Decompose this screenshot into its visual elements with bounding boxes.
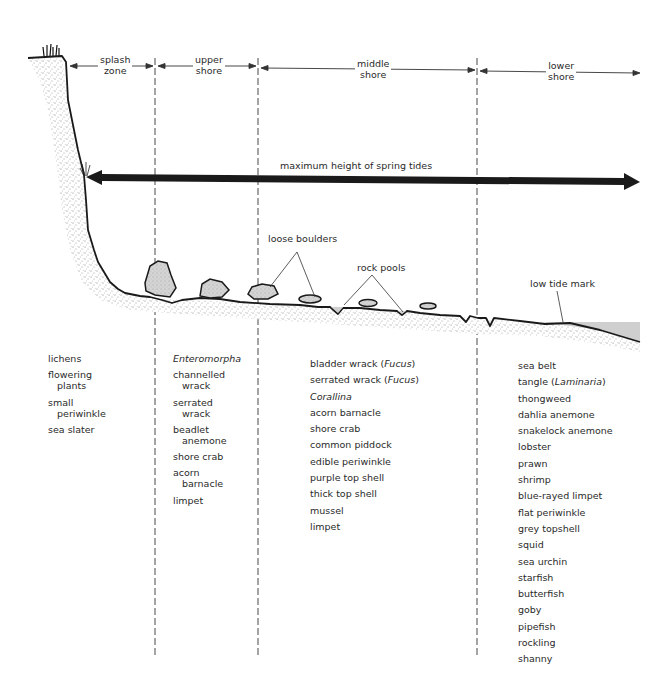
text-label: lobster [518,441,551,452]
text-label: shrimp [518,474,551,485]
species-item: tangle (Laminaria) [518,376,613,387]
species-item: snakelock anemone [518,425,613,436]
text-label: squid [518,539,544,550]
low-tide-mark-label: low tide mark [530,278,595,289]
text-label: lichens [48,353,81,364]
species-item: starfish [518,572,613,583]
text-label: acorn barnacle [310,407,381,418]
text-label: zone [100,65,130,76]
species-item: dahlia anemone [518,409,613,420]
text-label: rockling [518,637,556,648]
species-item: lichens [48,353,106,364]
text-label: anemone [173,435,241,446]
text-label: tangle ( [518,376,555,387]
text-label: butterfish [518,588,564,599]
text-label: upper [195,54,223,65]
species-item: lobster [518,441,613,452]
species-item: shrimp [518,474,613,485]
text-label: shore crab [173,451,223,462]
species-item: purple top shell [310,472,419,483]
text-label: serrated [173,397,213,408]
species-item: edible periwinkle [310,456,419,467]
species-item: common piddock [310,439,419,450]
species-item: squid [518,539,613,550]
species-item: blue-rayed limpet [518,490,613,501]
text-label: acorn [173,467,200,478]
species-list-splash-zone: lichens floweringplants smallperiwinkle … [48,353,106,440]
text-label: serrated wrack ( [310,374,388,385]
species-item: Enteromorpha [173,353,241,364]
text-label: ) [415,374,419,385]
text-label: limpet [173,495,203,506]
text-label: small [48,397,73,408]
species-item: flat periwinkle [518,507,613,518]
boulder [420,303,436,309]
text-label: lower [548,60,574,71]
species-item: beadletanemone [173,424,241,446]
species-item: butterfish [518,588,613,599]
text-label: plants [48,380,106,391]
species-item: acornbarnacle [173,467,241,489]
species-item: shore crab [310,423,419,434]
zone-label-splash: splash zone [98,54,132,76]
text-label: periwinkle [48,408,106,419]
text-label: ) [602,376,606,387]
text-label: grey topshell [518,523,580,534]
text-label: flat periwinkle [518,507,585,518]
species-item: sea slater [48,424,106,435]
species-item: channelledwrack [173,369,241,391]
species-item: limpet [310,521,419,532]
species-item: Corallina [310,391,419,402]
text-label: starfish [518,572,553,583]
boulder [248,284,278,299]
species-item: smallperiwinkle [48,397,106,419]
species-item: sea belt [518,360,613,371]
species-item: floweringplants [48,369,106,391]
text-label: limpet [310,521,340,532]
text-label: goby [518,604,542,615]
text-label: shore [548,71,574,82]
text-label: shanny [518,653,552,664]
text-label: beadlet [173,424,209,435]
text-label: sea belt [518,360,556,371]
zone-label-middle: middle shore [355,58,391,80]
boulder [200,279,229,298]
text-label: dahlia anemone [518,409,595,420]
text-label: Fucus [388,374,415,385]
species-item: acorn barnacle [310,407,419,418]
species-item: pipefish [518,621,613,632]
rock-pools-label: rock pools [357,262,406,273]
species-item: bladder wrack (Fucus) [310,358,419,369]
text-label: common piddock [310,439,392,450]
text-label: channelled [173,369,225,380]
text-label: middle [357,58,389,69]
text-label: edible periwinkle [310,456,391,467]
species-item: rockling [518,637,613,648]
species-item: serrated wrack (Fucus) [310,374,419,385]
text-label: blue-rayed limpet [518,490,602,501]
zone-label-lower: lower shore [546,60,576,82]
species-item: thongweed [518,393,613,404]
species-item: limpet [173,495,241,506]
spring-tides-label: maximum height of spring tides [280,160,432,171]
species-item: serratedwrack [173,397,241,419]
text-label: Corallina [310,391,352,402]
text-label: sea slater [48,424,95,435]
text-label: prawn [518,458,548,469]
text-label: pipefish [518,621,556,632]
species-list-middle-shore: bladder wrack (Fucus) serrated wrack (Fu… [310,358,419,537]
species-item: thick top shell [310,488,419,499]
text-label: Laminaria [555,376,602,387]
text-label: shore [195,65,223,76]
boulder [359,300,377,307]
text-label: ) [412,358,416,369]
text-label: bladder wrack ( [310,358,384,369]
text-label: barnacle [173,478,241,489]
text-label: snakelock anemone [518,425,613,436]
species-item: mussel [310,505,419,516]
text-label: purple top shell [310,472,384,483]
species-item: grey topshell [518,523,613,534]
boulder [299,295,321,303]
text-label: thick top shell [310,488,377,499]
boulder [145,261,176,297]
